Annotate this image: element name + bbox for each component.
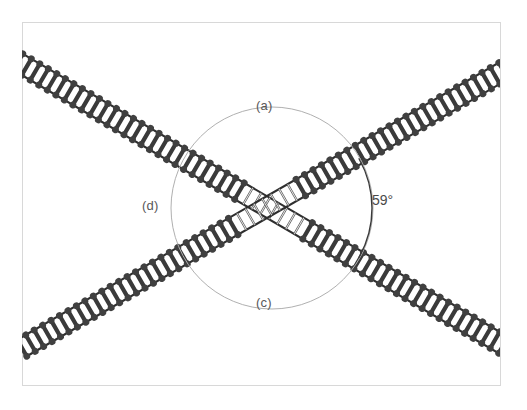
chain-rung [503, 53, 522, 79]
label-d: (d) [142, 198, 159, 213]
chain-bead [503, 53, 512, 62]
chain-bead [13, 335, 22, 344]
label-a: (a) [256, 98, 273, 113]
chain-bead [504, 332, 513, 341]
chain-bead [504, 74, 513, 83]
figure-canvas [0, 0, 527, 410]
chain-bead [9, 66, 18, 75]
chain-rung [503, 337, 522, 363]
chain-bead [512, 70, 521, 79]
figure-border [23, 23, 501, 386]
chain-bead [503, 354, 512, 363]
label-c: (c) [256, 295, 272, 310]
angle-label: 59° [372, 192, 393, 208]
chain-bead [512, 337, 521, 346]
molecular-crossing-figure: (a) (d) (c) 59° [0, 0, 527, 410]
